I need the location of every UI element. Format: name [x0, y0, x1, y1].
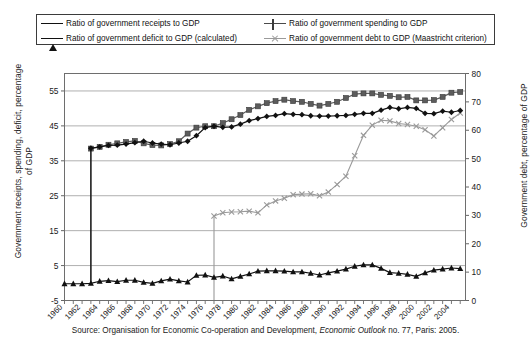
svg-text:1980: 1980 — [221, 302, 240, 321]
svg-text:50: 50 — [472, 154, 482, 164]
svg-text:10: 10 — [472, 267, 482, 277]
source-note: Source: Organisation for Economic Co-ope… — [0, 326, 531, 335]
chart-figure: Ratio of government receipts to GDP Rati… — [0, 0, 531, 347]
svg-text:1966: 1966 — [98, 302, 117, 321]
svg-text:60: 60 — [472, 125, 482, 135]
svg-text:1970: 1970 — [133, 302, 152, 321]
svg-text:1962: 1962 — [63, 302, 82, 321]
svg-text:1982: 1982 — [239, 302, 258, 321]
svg-text:1988: 1988 — [292, 302, 311, 321]
svg-text:70: 70 — [472, 97, 482, 107]
svg-text:1990: 1990 — [309, 302, 328, 321]
svg-text:1974: 1974 — [169, 302, 188, 321]
svg-text:1986: 1986 — [274, 302, 293, 321]
svg-text:1976: 1976 — [186, 302, 205, 321]
svg-text:2004: 2004 — [432, 302, 451, 321]
svg-text:30: 30 — [472, 210, 482, 220]
svg-text:1996: 1996 — [362, 302, 381, 321]
svg-text:55: 55 — [49, 86, 59, 96]
svg-text:5: 5 — [54, 261, 59, 271]
svg-text:35: 35 — [49, 156, 59, 166]
svg-text:1960: 1960 — [45, 302, 64, 321]
svg-text:20: 20 — [472, 239, 482, 249]
svg-text:1964: 1964 — [81, 302, 100, 321]
svg-text:1978: 1978 — [204, 302, 223, 321]
svg-text:1994: 1994 — [344, 302, 363, 321]
svg-text:25: 25 — [49, 191, 59, 201]
source-italic-title: Economic Outlook — [319, 326, 385, 335]
svg-text:1998: 1998 — [380, 302, 399, 321]
svg-text:1984: 1984 — [257, 302, 276, 321]
svg-text:0: 0 — [472, 296, 477, 306]
svg-text:2002: 2002 — [415, 302, 434, 321]
source-prefix: Source: Organisation for Economic Co-ope… — [72, 326, 320, 335]
svg-text:1968: 1968 — [116, 302, 135, 321]
svg-text:45: 45 — [49, 121, 59, 131]
source-suffix: no. 77, Paris: 2005. — [386, 326, 459, 335]
svg-text:1972: 1972 — [151, 302, 170, 321]
svg-text:40: 40 — [472, 182, 482, 192]
svg-text:15: 15 — [49, 226, 59, 236]
svg-text:80: 80 — [472, 69, 482, 79]
svg-text:2000: 2000 — [397, 302, 416, 321]
chart-plot-area: -551525354555010203040506070801960196219… — [0, 0, 531, 347]
svg-text:1992: 1992 — [327, 302, 346, 321]
